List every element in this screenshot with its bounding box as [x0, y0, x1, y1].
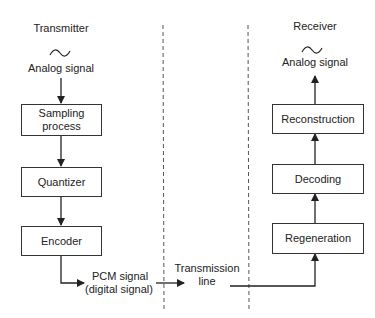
- sine-wave-icon: [50, 50, 70, 56]
- receiver-output-label: Analog signal: [274, 56, 356, 69]
- quantizer-block: Quantizer: [21, 167, 102, 197]
- divider-left: [163, 25, 164, 310]
- regeneration-block: Regeneration: [272, 223, 364, 254]
- sine-wave-icon: [302, 47, 322, 53]
- encoder-block: Encoder: [21, 226, 102, 256]
- transmitter-title: Transmitter: [28, 22, 94, 35]
- receiver-title: Receiver: [285, 20, 345, 33]
- decoding-block: Decoding: [272, 164, 364, 194]
- pcm-signal-sublabel: (digital signal): [82, 283, 156, 296]
- pcm-signal-label: PCM signal: [86, 270, 154, 283]
- sampling-process-block: Sampling process: [21, 104, 102, 136]
- divider-right: [248, 25, 249, 310]
- transmitter-input-label: Analog signal: [20, 62, 102, 75]
- transmission-line-sublabel: line: [172, 275, 242, 288]
- transmission-line-label: Transmission: [172, 262, 242, 275]
- reconstruction-block: Reconstruction: [272, 104, 364, 134]
